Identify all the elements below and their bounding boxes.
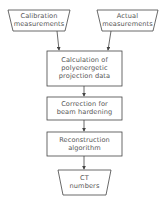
correction-step-label: Correction for beam hardening [47,100,122,116]
actual-measurements-label: Actual measurements [99,12,156,28]
calculation-step-label: Calculation of polyenergetic projection … [47,56,122,80]
arrow-calibration-to-calculation [57,31,59,50]
arrow-actual-to-calculation [108,31,111,50]
ct-numbers-label: CT numbers [60,174,109,190]
reconstruction-step-label: Reconstruction algorithm [47,136,122,152]
calibration-measurements-label: Calibration measurements [10,12,68,28]
